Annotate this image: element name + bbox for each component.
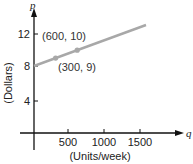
point-label-300-9: (300, 9) xyxy=(58,61,96,73)
x-tick-label: 1500 xyxy=(128,136,152,148)
x-axis-arrow-icon xyxy=(175,130,184,136)
y-tick-label: 12 xyxy=(18,28,30,40)
y-axis-title: (Dollars) xyxy=(2,62,14,104)
x-axis-variable: q xyxy=(186,127,192,139)
x-tick-label: 500 xyxy=(59,136,77,148)
point-label-600-10: (600, 10) xyxy=(42,30,86,42)
y-axis-variable: p xyxy=(29,0,36,11)
chart: p q 12 8 4 500 1000 1500 (Units/week) (D… xyxy=(0,0,193,164)
x-axis-title: (Units/week) xyxy=(69,150,130,162)
y-tick-label: 8 xyxy=(24,60,30,72)
y-tick-label: 4 xyxy=(24,95,30,107)
data-point-600-10 xyxy=(75,48,80,53)
data-point-300-9 xyxy=(53,56,58,61)
x-tick-label: 1000 xyxy=(92,136,116,148)
